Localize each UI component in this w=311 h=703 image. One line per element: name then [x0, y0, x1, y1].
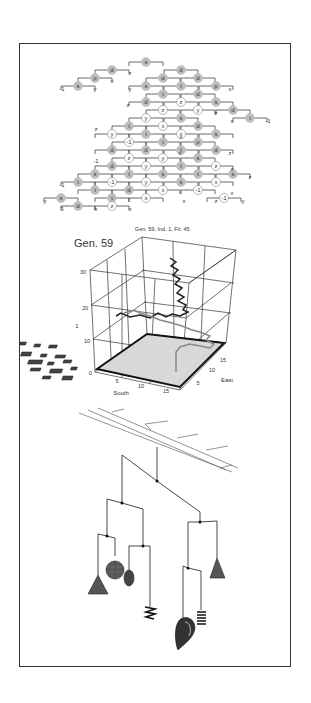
program-tree: sddpddsstptddzszydysttxdytxs-1tpddtdzysd… — [44, 58, 272, 213]
tree-node-label: y — [145, 163, 148, 169]
tree-node-label: d — [144, 99, 147, 105]
svg-text:30: 30 — [80, 269, 86, 275]
tree-leaf-label: x — [231, 190, 234, 196]
mobile-sculpture — [79, 408, 238, 650]
tree-node-label: s — [215, 99, 218, 105]
tree-node-label: z — [162, 107, 165, 113]
tree-node-label: -1 — [126, 139, 132, 145]
tree-node-label: x — [215, 179, 218, 185]
tree-leaf-label: z — [95, 126, 98, 132]
tree-leaf-label: x — [180, 134, 183, 140]
tree-node-label: y — [197, 107, 200, 113]
tree-node-label: d — [231, 107, 234, 113]
tree-node-label: d — [76, 203, 79, 209]
tree-node-label: d — [144, 147, 147, 153]
tree-node-label: -1 — [195, 187, 201, 193]
tree-leaf-label: x — [95, 206, 98, 212]
mobile-joints — [106, 480, 202, 570]
east-label: East — [221, 377, 233, 383]
tree-leaf-label: -1 — [59, 86, 65, 92]
tree-leaf-label: z — [129, 70, 132, 76]
tree-leaf-label: z — [215, 110, 218, 116]
tree-node-label: -1 — [221, 195, 227, 201]
svg-text:20: 20 — [82, 305, 88, 311]
z-axis: 30 20 10 0 1 — [75, 269, 92, 376]
tree-node-label: y — [162, 155, 165, 161]
tree-node-label: s — [145, 59, 148, 65]
tree-node-label: d — [196, 75, 199, 81]
tree-node-label: d — [127, 187, 130, 193]
tree-node-label: z — [111, 203, 114, 209]
figure-canvas: sddpddsstptddzszydysttxdytxs-1tpddtdzysd… — [0, 0, 311, 703]
tree-leaf-label: y — [129, 86, 132, 92]
svg-text:10: 10 — [84, 338, 90, 344]
tree-node-label: d — [110, 163, 113, 169]
mobile-wires — [98, 447, 217, 618]
cone-left — [88, 575, 108, 594]
svg-text:15: 15 — [163, 388, 169, 394]
tree-leaf-label: x — [231, 118, 234, 124]
tree-node-label: s — [180, 179, 183, 185]
ceiling-rails — [79, 408, 238, 472]
tree-node-label: d — [110, 147, 113, 153]
tree-leaf-label: 3 — [60, 206, 64, 212]
tree-node-label: d — [110, 67, 113, 73]
tree-leaf-label: z — [215, 198, 218, 204]
tree-leaf-label: x — [129, 206, 132, 212]
tree-node-label: d — [161, 75, 164, 81]
tree-node-label: s — [77, 83, 80, 89]
tree-leaf-label: z — [249, 174, 252, 180]
tree-leaf-label: -1 — [93, 158, 99, 164]
tree-leaf-label: z — [127, 102, 130, 108]
small-sphere — [124, 570, 134, 586]
svg-text:5: 5 — [115, 378, 118, 384]
tree-node-label: s — [60, 195, 63, 201]
svg-text:10: 10 — [209, 367, 215, 373]
tree-node-label: s — [215, 131, 218, 137]
sphere — [106, 561, 124, 579]
tree-leaf-label: y — [44, 198, 47, 204]
z-axis-label: 1 — [75, 323, 79, 329]
plot3d: Gen. 59, Ind. 1, Fit. 45. Gen. 59 — [19, 226, 236, 396]
tree-node-label: s — [197, 155, 200, 161]
tree-node-label: d — [196, 91, 199, 97]
svg-text:0: 0 — [89, 370, 92, 376]
tree-leaf-label: y — [94, 86, 97, 92]
tree-node-label: d — [214, 147, 217, 153]
tree-node-label: s — [162, 171, 165, 177]
tree-node-label: z — [180, 99, 183, 105]
tree-node-label: s — [180, 115, 183, 121]
tree-node-label: z — [215, 163, 218, 169]
tree-node-label: d — [196, 123, 199, 129]
tree-leaf-label: y — [242, 198, 245, 204]
tree-node-label: y — [145, 179, 148, 185]
tree-node-label: y — [145, 115, 148, 121]
tree-leaf-label: z — [229, 150, 232, 156]
spring-right — [197, 612, 206, 624]
tree-node-label: x — [145, 195, 148, 201]
tree-node-label: s — [94, 171, 97, 177]
svg-text:5: 5 — [196, 380, 199, 386]
svg-text:10: 10 — [138, 383, 144, 389]
tree-leaf-label: z — [231, 166, 234, 172]
tree-leaf-label: -1 — [265, 118, 271, 124]
generation-label: Gen. 59 — [74, 237, 113, 249]
tree-node-label: x — [162, 123, 165, 129]
tree-leaf-label: x — [111, 78, 114, 84]
tree-node-label: d — [179, 67, 182, 73]
tree-node-label: y — [111, 131, 114, 137]
tree-leaf-label: x — [183, 198, 186, 204]
tree-leaf-label: x — [179, 150, 182, 156]
plot-caption: Gen. 59, Ind. 1, Fit. 45. — [135, 226, 192, 232]
tree-node-label: x — [162, 187, 165, 193]
south-label: South — [113, 390, 129, 396]
tree-node-label: z — [128, 155, 131, 161]
tree-leaf-label: x — [229, 86, 232, 92]
svg-text:15: 15 — [220, 357, 226, 363]
tree-leaf-label: -1 — [59, 182, 65, 188]
tree-node-label: s — [145, 83, 148, 89]
spring-left — [145, 607, 155, 619]
tree-node-label: -1 — [109, 179, 115, 185]
cone-right — [210, 558, 225, 578]
